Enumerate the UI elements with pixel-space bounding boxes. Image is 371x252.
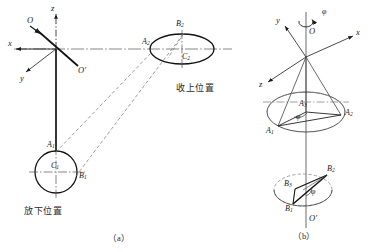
point-A2-label-a: A2 [142,38,150,47]
diagram-b-group [263,12,353,228]
cone-edge-to-A1 [278,57,306,126]
point-A3-sub-b: 3 [304,102,307,108]
x-axis-line-b [306,36,353,57]
point-C1-label-a: C1 [51,162,59,171]
label-raised-position: 收上位置 [176,84,214,93]
x-axis-label-a: x [8,39,12,48]
diagram-a-group [14,14,232,198]
angle-phi-upper-label-b: φ [296,113,300,121]
axis-O-Oprime-a [38,31,78,66]
y-axis-label-a: y [20,74,24,83]
y-axis-line-a [26,49,56,72]
point-B3-sub-b: 3 [289,182,292,188]
ellipse-lower-B-solid [274,190,332,206]
point-C2-sub-a: 2 [187,55,190,61]
point-B1-label-a: B1 [79,172,87,181]
point-A1-sub-b: 1 [271,129,274,135]
point-A1-label-b: A1 [266,127,274,136]
connector-A1-A2 [56,52,152,152]
point-B2-label-b: B2 [327,165,335,174]
point-C2-label-a: C2 [182,53,190,62]
caption-a: （a） [108,234,130,243]
z-axis-line-b [268,57,306,82]
point-A2-label-b: A2 [345,109,353,118]
y-axis-line-b [285,26,306,57]
point-B1-sub-a: 1 [84,174,87,180]
chord-A3-A2 [306,112,341,115]
z-axis-label-b: z [259,80,262,89]
angle-phi-lower-label-b: φ [311,188,315,196]
point-A1-sub-a: 1 [52,143,55,149]
origin-Oprime-label-b: O′ [309,214,317,223]
point-A1-label-a: A1 [47,141,55,150]
chord-B1-B2 [293,175,327,204]
point-B3-label-b: B3 [284,180,292,189]
origin-Oprime-label-a: O′ [78,66,86,75]
connector-B1-B2 [76,33,184,176]
origin-O-label-a: O [27,16,33,25]
figure-canvas: x y z O O′ A1 B1 C1 A2 B2 C2 收上位置 放下位置 x… [0,0,371,252]
point-B1-sub-b: 1 [290,207,293,213]
point-B2-sub-b: 2 [332,167,335,173]
origin-O-label-b: O [309,27,315,36]
point-A2-sub-b: 2 [350,111,353,117]
point-A2-sub-a: 2 [147,40,150,46]
o-arrow-tick-a [30,26,41,34]
x-axis-label-b: x [356,28,360,37]
point-B2-label-a: B2 [176,20,184,29]
point-B2-sub-a: 2 [181,22,184,28]
caption-b: （b） [293,232,315,241]
cone-edge-to-A2 [306,57,341,115]
label-lowered-position: 放下位置 [24,207,62,216]
chord-A1-A2 [278,115,341,126]
rotation-angle-phi-label-b: φ [322,8,326,16]
y-axis-label-b: y [276,16,280,25]
point-B1-label-b: B1 [285,205,293,214]
point-A3-label-b: A3 [299,100,307,109]
point-C1-sub-a: 1 [56,164,59,170]
z-axis-label-a: z [51,4,54,13]
